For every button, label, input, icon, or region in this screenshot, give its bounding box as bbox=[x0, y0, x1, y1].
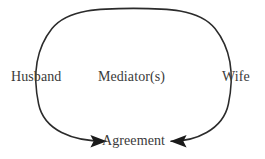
node-label-agreement: Agreement bbox=[0, 134, 265, 148]
mediation-diagram: Husband Mediator(s) Wife Agreement bbox=[0, 0, 265, 159]
node-label-wife: Wife bbox=[222, 70, 250, 84]
